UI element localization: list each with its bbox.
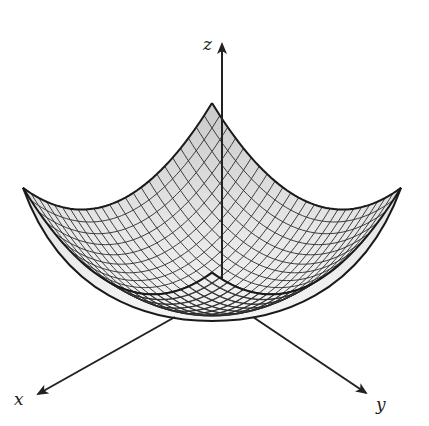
paraboloid-figure: x y z (0, 0, 429, 426)
z-axis-label: z (202, 34, 213, 54)
paraboloid-surface (23, 103, 401, 321)
y-axis (253, 317, 366, 393)
x-axis (38, 317, 175, 394)
y-axis-label: y (375, 394, 386, 414)
x-axis-label: x (14, 389, 24, 409)
